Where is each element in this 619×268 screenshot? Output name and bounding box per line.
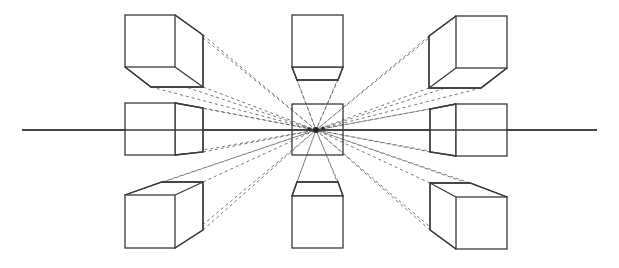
cube-top-left (125, 15, 203, 87)
measuring-point-dot (307, 127, 310, 130)
cube-front-face (456, 197, 507, 249)
vanishing-point-dot (313, 127, 319, 133)
measuring-point-dot (321, 126, 324, 129)
cube-front-face (125, 103, 175, 155)
cube-front-face (125, 195, 175, 248)
cube-side-face (292, 67, 343, 80)
perspective-diagram (0, 0, 619, 268)
convergence-line (316, 130, 430, 183)
cube-bottom-right (430, 183, 507, 249)
convergence-line (316, 130, 430, 152)
convergence-line (203, 87, 316, 130)
cube-front-face (292, 15, 343, 67)
cube-front-face (292, 196, 343, 248)
convergence-line (203, 130, 316, 182)
cube-side-face (175, 103, 203, 155)
cube-bottom-left (125, 182, 203, 248)
cube-front-face (456, 16, 507, 68)
cube-top-right (429, 16, 507, 88)
cube-top-middle (292, 15, 343, 80)
cube-middle-left (125, 103, 203, 155)
diagram-svg (0, 0, 619, 268)
cube-side-face (292, 182, 343, 196)
cube-bottom-middle (292, 182, 343, 248)
cube-front-face (125, 15, 175, 67)
convergence-line (316, 88, 429, 130)
